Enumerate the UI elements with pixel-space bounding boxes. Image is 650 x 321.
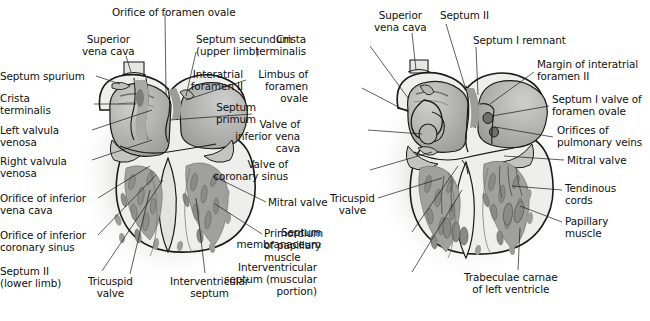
label-septum_i_valve_foramen_ovale: Septum I valve of foramen ovale	[552, 93, 642, 117]
label-orifice_foramen_ovale: Orifice of foramen ovale	[112, 6, 235, 18]
label-crista_terminalis_r: Crista terminalis	[0, 33, 306, 57]
label-mitral_valve_l: Mitral valve	[268, 196, 328, 208]
label-superior_vena_cava_r: Superior vena cava	[374, 9, 427, 33]
label-interventricular_septum_muscular: Interventricular septum (muscular portio…	[0, 261, 317, 298]
label-mitral_valve_r: Mitral valve	[567, 154, 627, 166]
label-valve_inferior_vena_cava: Valve of inferior vena cava	[0, 118, 300, 155]
label-trabeculae_carnae_left_ventricle: Trabeculae carnae of left ventricle	[464, 271, 558, 295]
label-valve_coronary_sinus: Valve of coronary sinus	[0, 158, 288, 182]
right-heart-section	[397, 60, 553, 258]
label-septum_membranaceum: Septum membranaceum	[0, 226, 321, 250]
anatomy-figure: Orifice of foramen ovaleSuperior vena ca…	[0, 0, 650, 321]
label-septum_i_remnant: Septum I remnant	[473, 34, 566, 46]
label-orifice_inferior_vena_cava: Orifice of inferior vena cava	[0, 192, 2, 216]
label-tendinous_cords: Tendinous cords	[565, 182, 616, 206]
label-margin_interatrial_foramen_ii: Margin of interatrial foramen II	[537, 58, 638, 82]
label-limbus_foramen_ovale: Limbus of foramen ovale	[0, 68, 308, 105]
label-orifices_pulmonary_veins: Orifices of pulmonary veins	[557, 124, 642, 148]
label-tricuspid_valve_r: Tricuspid valve	[330, 192, 375, 216]
label-septum_ii_r: Septum II	[440, 9, 489, 21]
label-papillary_muscle: Papillary muscle	[565, 215, 608, 239]
